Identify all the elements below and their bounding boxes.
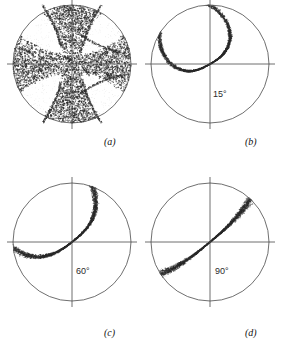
angle-label: 60° <box>76 266 90 276</box>
pole-figure-a <box>5 0 139 131</box>
angle-label: 90° <box>215 266 229 276</box>
pole-figure-c <box>5 175 139 309</box>
pole-figure-d <box>143 175 277 309</box>
panel-caption: (a) <box>104 136 116 147</box>
stipple-density-layer <box>159 197 253 277</box>
panel-caption: (c) <box>104 327 115 338</box>
pole-figure-b <box>143 0 277 131</box>
stipple-density-layer <box>12 185 99 259</box>
panel-caption: (b) <box>245 136 257 147</box>
angle-label: 15° <box>213 89 227 99</box>
stipple-density-layer <box>157 4 233 73</box>
panel-caption: (d) <box>245 327 257 338</box>
pole-figure-panel-grid: (a)15°(b)60°(c)90°(d) <box>0 0 283 341</box>
